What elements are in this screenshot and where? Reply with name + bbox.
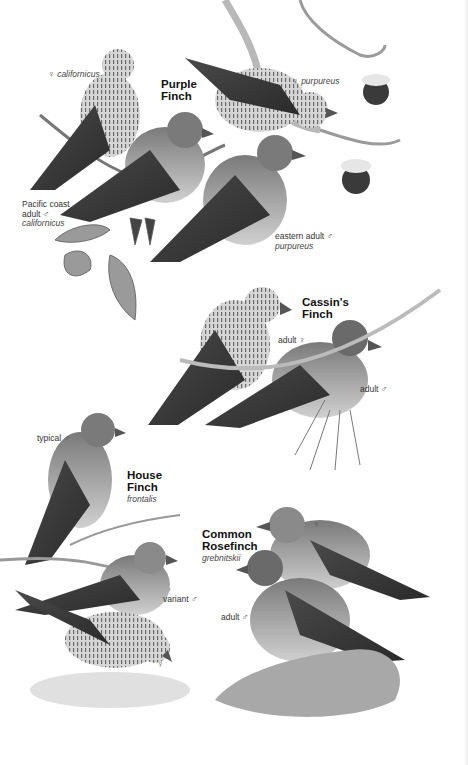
label-house-female: ♀ xyxy=(157,660,164,670)
label-line1: Pacific coast xyxy=(22,199,70,209)
male-symbol-icon: ♂ xyxy=(191,594,198,604)
label-female-californicus: ♀ californicus xyxy=(48,70,100,80)
label-line2: adult xyxy=(22,209,40,219)
ground-grass-left xyxy=(30,672,190,708)
title-line1: House xyxy=(127,469,162,481)
house-finch-title: House Finch xyxy=(127,469,162,493)
male-symbol-icon: ♂ xyxy=(381,384,388,394)
label-female-purpureus: ♀ purpureus xyxy=(292,77,339,87)
label-text: variant xyxy=(163,594,189,604)
label-text: adult xyxy=(278,335,296,345)
male-symbol-icon: ♂ xyxy=(43,209,50,219)
label-cassins-male: adult ♂ xyxy=(360,385,388,395)
title-line1: Cassin's xyxy=(302,296,349,308)
title-line2: Rosefinch xyxy=(202,540,258,552)
title-line2: Finch xyxy=(302,308,333,320)
purple-finch-female-purpureus xyxy=(185,58,338,132)
label-text: adult xyxy=(360,384,378,394)
label-text: californicus xyxy=(57,69,100,79)
label-eastern-male: eastern adult ♂ purpureus xyxy=(275,232,333,251)
female-symbol-icon: ♀ xyxy=(157,659,164,669)
label-text: purpureus xyxy=(301,76,339,86)
cassins-finch-title: Cassin's Finch xyxy=(302,296,349,320)
label-pacific-coast-male: Pacific coast adult ♂ californicus xyxy=(22,200,70,229)
leaves xyxy=(55,218,155,320)
male-symbol-icon: ♂ xyxy=(242,612,249,622)
title-line1: Common xyxy=(202,528,252,540)
purple-finch-title: Purple Finch xyxy=(161,78,197,102)
label-rosefinch-female: ♀ xyxy=(313,520,320,530)
female-symbol-icon: ♀ xyxy=(313,519,320,529)
label-line3: californicus xyxy=(22,218,65,228)
common-rosefinch-subspecies: grebnitskii xyxy=(202,553,240,563)
label-house-variant-male: variant ♂ xyxy=(163,595,198,605)
rock xyxy=(215,649,400,717)
title-line1: Purple xyxy=(161,78,197,90)
label-rosefinch-male: adult ♂ xyxy=(221,613,249,623)
field-guide-plate: Purple Finch ♀ californicus ♀ purpureus … xyxy=(0,0,468,765)
female-symbol-icon: ♀ xyxy=(292,76,299,86)
label-cassins-female: adult ♀ xyxy=(278,336,306,346)
common-rosefinch-title: Common Rosefinch xyxy=(202,528,258,552)
label-text: adult xyxy=(221,612,239,622)
sweetgum-fruit xyxy=(341,74,390,194)
finch-illustrations xyxy=(0,0,468,765)
house-finch-subspecies: frontalis xyxy=(127,494,157,504)
male-symbol-icon: ♂ xyxy=(63,433,70,443)
male-symbol-icon: ♂ xyxy=(327,231,334,241)
female-symbol-icon: ♀ xyxy=(48,69,55,79)
label-line1: eastern adult xyxy=(275,231,324,241)
label-text: typical xyxy=(37,433,61,443)
label-house-typical-male: typical ♂ xyxy=(37,434,70,444)
female-symbol-icon: ♀ xyxy=(299,335,306,345)
title-line2: Finch xyxy=(127,481,158,493)
label-line2: purpureus xyxy=(275,241,313,251)
title-line2: Finch xyxy=(161,90,192,102)
